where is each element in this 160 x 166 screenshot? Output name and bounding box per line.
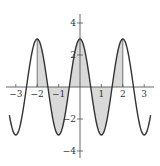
x-tick-label: −2	[31, 89, 44, 99]
y-tick-label: 4	[70, 18, 76, 28]
x-tick-label: 3	[141, 89, 147, 99]
x-tick-label: −3	[9, 89, 23, 99]
function-plot: −3−2−112342−2−4	[0, 0, 160, 166]
x-tick-label: 2	[120, 89, 126, 99]
x-tick-label: −1	[52, 89, 65, 99]
x-tick-label: 1	[99, 89, 105, 99]
y-tick-label: −2	[63, 114, 76, 124]
y-tick-label: 2	[70, 50, 76, 60]
y-tick-label: −4	[63, 146, 77, 156]
